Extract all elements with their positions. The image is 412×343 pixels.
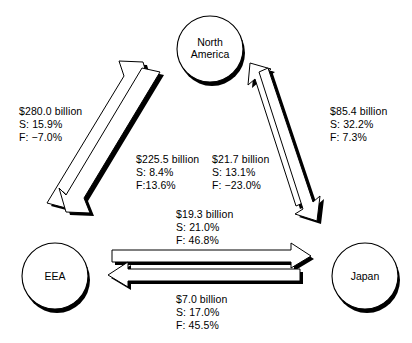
flow-growth: F: −23.0%	[212, 179, 269, 192]
flow-amount: $280.0 billion	[19, 105, 82, 118]
flow-share: S: 15.9%	[19, 118, 82, 131]
flow-amount: $21.7 billion	[212, 153, 269, 166]
arrow-japan-to-eea	[108, 262, 303, 290]
node-label-japan: Japan	[335, 270, 395, 282]
flow-growth: F: 46.8%	[176, 234, 233, 247]
node-label-eea-line1: EEA	[25, 270, 85, 282]
flow-growth: F:13.6%	[136, 179, 199, 192]
flow-share: S: 13.1%	[212, 166, 269, 179]
flow-share: S: 21.0%	[176, 221, 233, 234]
flow-label-japan-to-eea: $7.0 billion S: 17.0% F: 45.5%	[176, 293, 227, 333]
flow-growth: F: 45.5%	[176, 319, 227, 332]
flow-amount: $85.4 billion	[330, 105, 387, 118]
node-label-north-america-line2: America	[180, 48, 240, 60]
node-label-north-america-line1: North	[180, 36, 240, 48]
flow-share: S: 8.4%	[136, 166, 199, 179]
flow-amount: $225.5 billion	[136, 153, 199, 166]
flow-share: S: 17.0%	[176, 306, 227, 319]
flow-label-japan-to-north-america: $85.4 billion S: 32.2% F: 7.3%	[330, 105, 387, 145]
flow-label-eea-to-japan: $19.3 billion S: 21.0% F: 46.8%	[176, 208, 233, 248]
node-label-north-america: North America	[180, 36, 240, 61]
flow-amount: $19.3 billion	[176, 208, 233, 221]
flow-growth: F: 7.3%	[330, 131, 387, 144]
node-label-japan-line1: Japan	[335, 270, 395, 282]
flow-label-north-america-to-eea: $225.5 billion S: 8.4% F:13.6%	[136, 153, 199, 193]
flow-label-north-america-to-japan: $21.7 billion S: 13.1% F: −23.0%	[212, 153, 269, 193]
flow-label-eea-to-north-america: $280.0 billion S: 15.9% F: −7.0%	[19, 105, 82, 145]
flow-share: S: 32.2%	[330, 118, 387, 131]
flow-growth: F: −7.0%	[19, 131, 82, 144]
node-label-eea: EEA	[25, 270, 85, 282]
flow-amount: $7.0 billion	[176, 293, 227, 306]
arrow-north-america-to-japan	[259, 68, 324, 224]
